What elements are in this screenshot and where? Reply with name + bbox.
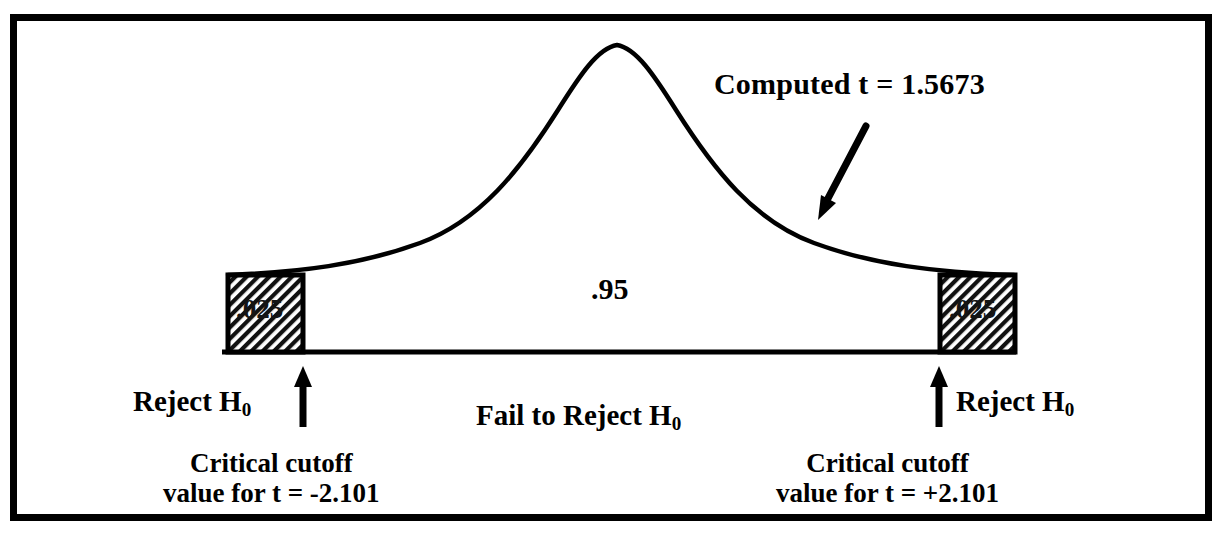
center-probability-label: .95 bbox=[591, 272, 629, 306]
left-cutoff-line-2: value for t = -2.101 bbox=[163, 478, 380, 508]
left-tail-probability-label: .025 bbox=[236, 294, 283, 324]
right-reject-subscript: 0 bbox=[1065, 399, 1075, 420]
figure-root: Computed t = 1.5673 .95 .025 .025 Reject… bbox=[0, 0, 1231, 545]
left-cutoff-caption: Critical cutoff value for t = -2.101 bbox=[163, 448, 380, 508]
right-cutoff-line-1: Critical cutoff bbox=[776, 448, 999, 478]
left-reject-text: Reject H bbox=[133, 385, 242, 417]
computed-t-label: Computed t = 1.5673 bbox=[714, 67, 985, 101]
right-tail-probability-label: .025 bbox=[949, 294, 996, 324]
fail-to-reject-subscript: 0 bbox=[672, 413, 682, 434]
left-reject-label: Reject H0 bbox=[133, 385, 251, 417]
left-reject-subscript: 0 bbox=[242, 399, 252, 420]
fail-to-reject-text: Fail to Reject H bbox=[476, 399, 672, 431]
right-cutoff-line-2: value for t = +2.101 bbox=[776, 478, 999, 508]
fail-to-reject-label: Fail to Reject H0 bbox=[476, 399, 681, 431]
left-cutoff-line-1: Critical cutoff bbox=[163, 448, 380, 478]
right-reject-label: Reject H0 bbox=[956, 385, 1074, 417]
right-cutoff-caption: Critical cutoff value for t = +2.101 bbox=[776, 448, 999, 508]
figure-border bbox=[10, 14, 1212, 521]
right-reject-text: Reject H bbox=[956, 385, 1065, 417]
